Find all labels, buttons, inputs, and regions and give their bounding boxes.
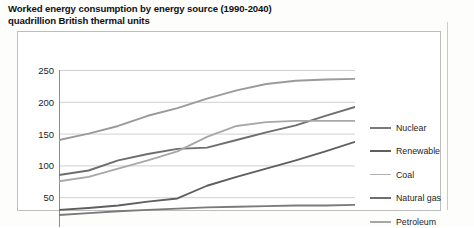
chart-subtitle: quadrillion British thermal units (8, 15, 338, 27)
plot-area (59, 70, 355, 227)
chart-legend: NuclearRenewableCoalNatural gasPetroleum (370, 116, 466, 227)
legend-item[interactable]: Coal (370, 163, 466, 187)
y-axis-tick-label: 150 (38, 128, 54, 139)
legend-item-label: Petroleum (396, 217, 436, 227)
legend-line-swatch (370, 174, 391, 175)
chart-frame: 050100150200250 199010952000200520102015… (17, 31, 441, 211)
legend-item[interactable]: Renewable (370, 140, 466, 164)
y-axis: 050100150200250 (18, 70, 54, 227)
legend-item-label: Natural gas (396, 193, 441, 203)
y-axis-tick-label: 100 (38, 160, 54, 171)
legend-item[interactable]: Petroleum (370, 210, 466, 227)
y-axis-tick-label: 50 (43, 192, 54, 203)
series-line (59, 107, 355, 175)
page-title: Worked energy consumption by energy sour… (8, 3, 338, 15)
chart-lines (59, 70, 355, 227)
y-axis-tick-label: 0 (49, 224, 54, 228)
y-axis-tick-label: 200 (38, 96, 54, 107)
legend-item-label: Renewable (396, 146, 440, 156)
legend-line-swatch (370, 197, 391, 199)
legend-item-label: Coal (396, 170, 414, 180)
y-axis-tick-label: 250 (38, 65, 54, 76)
series-line (59, 79, 355, 140)
chart-title-block: Worked energy consumption by energy sour… (8, 3, 338, 26)
legend-item[interactable]: Nuclear (370, 116, 466, 140)
legend-line-swatch (370, 150, 391, 152)
legend-line-swatch (370, 127, 391, 129)
series-line (59, 142, 355, 210)
legend-item[interactable]: Natural gas (370, 187, 466, 211)
legend-item-label: Nuclear (396, 123, 426, 133)
legend-line-swatch (370, 221, 391, 223)
